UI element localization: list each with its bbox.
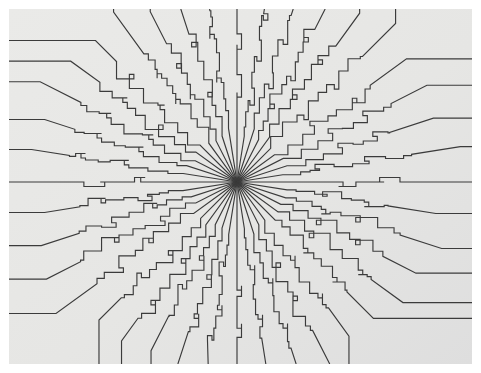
figure-canvas	[0, 0, 481, 373]
figure-stage	[0, 0, 481, 373]
radial-burst-svg	[0, 0, 481, 373]
